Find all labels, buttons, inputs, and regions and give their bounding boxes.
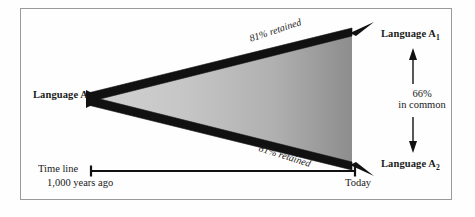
label-language-a1-subscript: 1 bbox=[436, 33, 440, 42]
arrowhead-lower bbox=[350, 162, 374, 176]
arrowhead-upper bbox=[350, 22, 374, 36]
common-arrowhead-down bbox=[409, 141, 417, 153]
label-in-common: 66% in common bbox=[391, 88, 453, 110]
label-language-a2-subscript: 2 bbox=[436, 163, 440, 172]
label-language-a2-text: Language A bbox=[381, 158, 436, 169]
label-timeline-end: Today bbox=[345, 177, 371, 188]
common-percent-value: 66% bbox=[391, 88, 453, 99]
label-language-a: Language A bbox=[33, 89, 88, 100]
figure-container: Language A Language A1 Language A2 66% i… bbox=[0, 0, 475, 217]
label-timeline-start: 1,000 years ago bbox=[47, 177, 113, 188]
common-percent-caption: in common bbox=[391, 99, 453, 110]
label-language-a1-text: Language A bbox=[381, 28, 436, 39]
label-timeline: Time line bbox=[38, 163, 78, 174]
divergence-wedge bbox=[93, 34, 352, 165]
label-language-a2: Language A2 bbox=[381, 158, 440, 172]
label-language-a1: Language A1 bbox=[381, 28, 440, 42]
common-arrowhead-up bbox=[409, 48, 417, 60]
